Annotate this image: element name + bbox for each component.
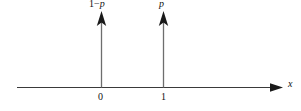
stem-height-label-x0-prefix: 1−: [89, 0, 100, 9]
stem-height-label-x1-symbol: p: [159, 0, 164, 9]
stem-height-label-x1: p: [159, 0, 164, 9]
x-axis-tick-label-1: 1: [161, 92, 166, 102]
stem-height-label-x0: 1−p: [89, 0, 105, 9]
stem-height-label-x0-symbol: p: [100, 0, 105, 9]
figure-canvas: [0, 0, 301, 111]
x-axis-arrowhead: [270, 83, 283, 92]
x-axis-tick-label-0: 0: [98, 92, 103, 102]
bernoulli-pmf-figure: 1−p p 0 1 x: [0, 0, 301, 111]
x-axis-label: x: [288, 79, 292, 89]
